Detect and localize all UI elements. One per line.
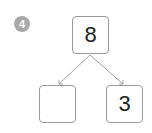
whole-box: 8 [72,16,109,54]
part-right-box: 3 [106,85,143,123]
part-left-box[interactable] [39,85,76,123]
